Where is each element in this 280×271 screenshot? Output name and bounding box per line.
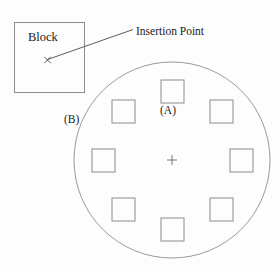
array-center-cross — [167, 155, 177, 165]
insertion-point-x-marker — [44, 57, 50, 63]
array-item-square — [161, 218, 184, 241]
insertion-point-label: Insertion Point — [136, 26, 204, 38]
array-item-square — [210, 100, 233, 123]
callout-label-a: (A) — [160, 105, 176, 117]
callout-label-b: (B) — [64, 114, 79, 126]
block-label: Block — [28, 31, 58, 44]
array-item-square — [210, 198, 233, 221]
array-item-square — [230, 149, 253, 172]
array-item-square — [92, 149, 115, 172]
insertion-point-leader-line — [48, 30, 134, 60]
diagram-canvas: Block Insertion Point (A) (B) — [0, 0, 280, 271]
array-item-square — [161, 80, 184, 103]
array-item-square — [112, 100, 135, 123]
array-item-square — [112, 198, 135, 221]
